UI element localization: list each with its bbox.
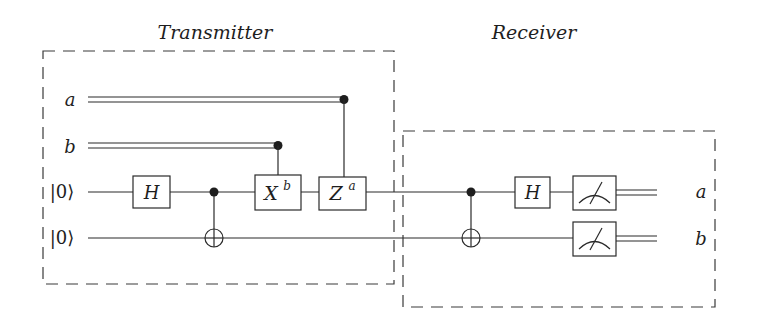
receiver-hadamard-gate: H xyxy=(515,177,550,208)
x-power-b-gate: X b xyxy=(255,175,301,210)
svg-text:Z: Z xyxy=(328,182,343,204)
classical-control-b xyxy=(274,141,283,175)
classical-control-a xyxy=(340,95,349,177)
transmitter-hadamard-gate: H xyxy=(133,176,170,208)
classical-output-wire-b xyxy=(616,236,657,241)
output-label-b: b xyxy=(695,228,707,249)
control-dot-icon xyxy=(210,188,219,197)
z-power-a-gate: Z a xyxy=(319,177,366,210)
svg-text:a: a xyxy=(348,179,355,193)
measurement-meter-2 xyxy=(573,222,616,256)
classical-wire-a xyxy=(88,97,344,102)
receiver-title: Receiver xyxy=(491,21,578,43)
measurement-meter-1 xyxy=(573,176,616,210)
receiver-cnot-gate xyxy=(462,188,480,248)
transmitter-box xyxy=(43,51,394,284)
svg-text:H: H xyxy=(524,182,541,203)
transmitter-title: Transmitter xyxy=(158,21,275,43)
svg-text:H: H xyxy=(143,182,160,203)
control-dot-icon xyxy=(467,188,476,197)
input-ket-q2: |0⟩ xyxy=(50,227,75,249)
svg-text:X: X xyxy=(262,182,279,204)
svg-text:b: b xyxy=(283,179,291,193)
output-label-a: a xyxy=(696,181,707,202)
receiver-box xyxy=(403,131,715,307)
transmitter-cnot-gate xyxy=(205,188,223,248)
classical-wire-b xyxy=(88,143,278,148)
classical-output-wire-a xyxy=(616,190,657,195)
circuit-diagram: Transmitter Receiver a b |0⟩ |0⟩ H xyxy=(0,0,757,326)
input-label-b: b xyxy=(64,136,76,157)
input-ket-q1: |0⟩ xyxy=(50,181,75,203)
input-label-a: a xyxy=(65,89,76,110)
